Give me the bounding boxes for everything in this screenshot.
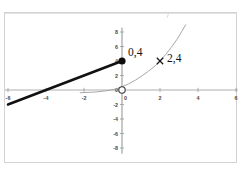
cut-off-header-text-right: ·· xyxy=(234,0,240,4)
y-tick-label: -4 xyxy=(113,116,118,122)
x-tick-label: -4 xyxy=(44,95,49,101)
marker-filled-point xyxy=(118,57,125,64)
y-tick-label: 8 xyxy=(115,29,118,35)
x-tick-label: -2 xyxy=(82,95,87,101)
marker-open-point-origin xyxy=(119,87,125,93)
y-tick-label: 6 xyxy=(115,44,118,50)
y-tick-label: -8 xyxy=(113,145,118,151)
series-linear-segment xyxy=(8,61,122,105)
y-tick-label: 2 xyxy=(115,73,118,79)
figure-panel: -6-4-2024686420-2-4-6-80,42,4 xyxy=(4,12,237,163)
point-label-filled-point: 0,4 xyxy=(128,46,143,59)
x-tick-label: 6 xyxy=(235,95,238,101)
cut-off-header-text-left: ········· ······ ····· xyxy=(3,0,81,4)
y-tick-label: -6 xyxy=(113,131,118,137)
x-tick-label: 0 xyxy=(124,95,127,101)
plot-area: -6-4-2024686420-2-4-6-80,42,4 xyxy=(5,13,238,164)
x-tick-label: 2 xyxy=(159,95,162,101)
x-tick-label: -6 xyxy=(6,95,11,101)
y-tick-label: -2 xyxy=(113,102,118,108)
cut-off-header-strip: ········· ······ ····· ·· xyxy=(0,0,243,11)
screenshot-root: ········· ······ ····· ·· -6-4-202468642… xyxy=(0,0,243,172)
x-tick-label: 4 xyxy=(197,95,200,101)
coordinate-graph: -6-4-2024686420-2-4-6-80,42,4 xyxy=(5,13,238,164)
point-label-cross-point: 2,4 xyxy=(167,52,182,65)
